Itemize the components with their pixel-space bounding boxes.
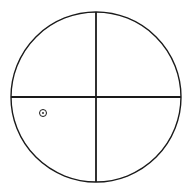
- quadrant-diagram: [0, 0, 190, 191]
- target-marker: [40, 110, 47, 117]
- target-marker-dot-icon: [42, 112, 44, 114]
